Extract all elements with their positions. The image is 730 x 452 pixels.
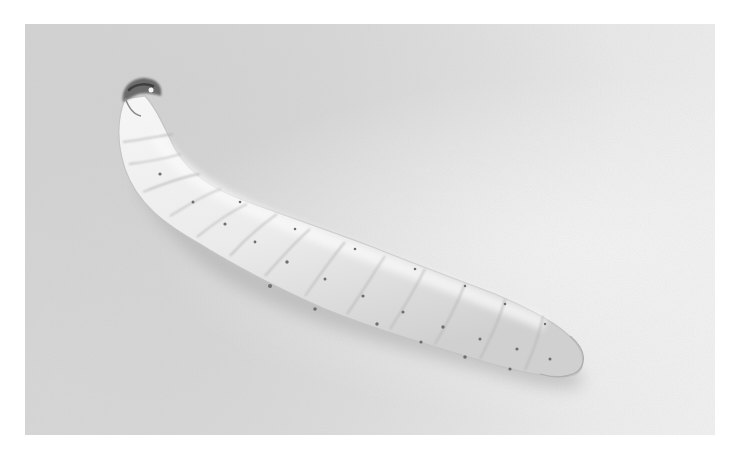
clipped-text-line bbox=[60, 0, 700, 5]
larva-illustration bbox=[25, 24, 715, 435]
larva-photo bbox=[25, 24, 715, 435]
page bbox=[0, 0, 730, 452]
